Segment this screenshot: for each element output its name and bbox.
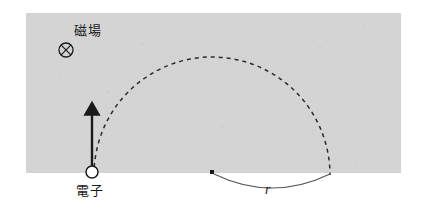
filled-square-dot-icon xyxy=(210,170,214,174)
electron-label: 電子 xyxy=(76,184,103,197)
radius-label: r xyxy=(265,183,270,197)
magnetic-field-label: 磁場 xyxy=(74,24,101,37)
radius-indicator-arc xyxy=(214,174,330,188)
diagram-canvas xyxy=(0,0,423,213)
open-circle-icon xyxy=(86,166,98,178)
physics-diagram-figure: 磁場 電子 r xyxy=(0,0,423,213)
